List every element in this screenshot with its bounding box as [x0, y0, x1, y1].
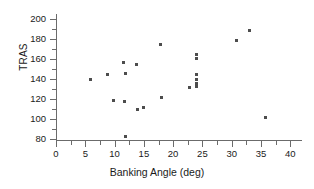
data-point: [188, 86, 191, 89]
data-point: [122, 61, 125, 64]
data-point: [248, 29, 251, 32]
plot-area: [56, 14, 302, 141]
x-tick-major: [115, 141, 116, 147]
data-point: [235, 39, 238, 42]
x-tick-minor: [217, 141, 218, 145]
data-point: [106, 73, 109, 76]
x-tick-major: [173, 141, 174, 147]
x-tick-minor: [71, 141, 72, 145]
scatter-chart: 80100120140160180200 0510152025303540 TR…: [0, 0, 314, 189]
y-tick-label: 100: [6, 114, 46, 124]
y-axis-title: TRAS: [19, 27, 29, 87]
x-tick-minor: [276, 141, 277, 145]
x-tick-label: 30: [217, 149, 247, 159]
data-point: [159, 43, 162, 46]
data-point: [195, 78, 198, 81]
data-point: [195, 73, 198, 76]
x-tick-label: 15: [129, 149, 159, 159]
y-tick-label: 80: [6, 134, 46, 144]
x-tick-label: 0: [41, 149, 71, 159]
data-point: [195, 85, 198, 88]
data-point: [142, 106, 145, 109]
data-point: [135, 63, 138, 66]
data-point: [195, 57, 198, 60]
x-tick-label: 40: [275, 149, 305, 159]
data-point: [136, 108, 139, 111]
y-tick-label: 200: [6, 14, 46, 24]
data-point: [160, 96, 163, 99]
y-tick-label: 120: [6, 94, 46, 104]
x-tick-major: [144, 141, 145, 147]
x-tick-label: 35: [246, 149, 276, 159]
data-point: [124, 135, 127, 138]
x-tick-minor: [188, 141, 189, 145]
x-axis-title: Banking Angle (deg): [0, 167, 314, 178]
x-tick-minor: [100, 141, 101, 145]
x-tick-major: [85, 141, 86, 147]
data-point: [264, 116, 267, 119]
data-point: [195, 53, 198, 56]
x-tick-major: [261, 141, 262, 147]
x-tick-major: [290, 141, 291, 147]
x-tick-minor: [129, 141, 130, 145]
data-point: [124, 72, 127, 75]
x-tick-label: 5: [70, 149, 100, 159]
data-point: [112, 99, 115, 102]
x-tick-label: 20: [158, 149, 188, 159]
data-point: [89, 78, 92, 81]
data-point: [123, 100, 126, 103]
x-tick-major: [202, 141, 203, 147]
x-tick-minor: [246, 141, 247, 145]
x-tick-major: [232, 141, 233, 147]
x-tick-label: 25: [187, 149, 217, 159]
x-tick-major: [56, 141, 57, 147]
x-tick-minor: [159, 141, 160, 145]
x-tick-label: 10: [100, 149, 130, 159]
